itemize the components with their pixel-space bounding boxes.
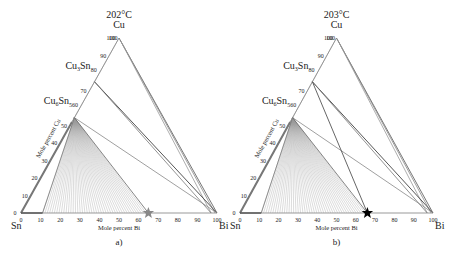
- phase-label-cu3sn: Cu3Sn80: [65, 60, 96, 73]
- left-tick: 40: [51, 140, 57, 146]
- left-tick: 30: [41, 158, 47, 164]
- vertex-label-cu: Cu: [331, 19, 343, 30]
- x-axis-label: Mole percent Bi: [98, 224, 140, 231]
- temperature-title: 202°C: [106, 9, 132, 20]
- left-tick: 90: [318, 53, 324, 59]
- left-tick: 10: [22, 193, 28, 199]
- temperature-title: 203°C: [324, 9, 350, 20]
- bottom-tick: 70: [372, 217, 378, 223]
- panel-label: a): [116, 237, 123, 247]
- left-tick: 90: [100, 53, 106, 59]
- bottom-tick: 80: [391, 217, 397, 223]
- left-tick: 70: [81, 88, 87, 94]
- y-axis-label: Mole percent Cu: [34, 117, 62, 159]
- vertex-label-sn: Sn: [11, 220, 22, 231]
- vertex-label-cu: Cu: [113, 19, 125, 30]
- vertex-label-sn: Sn: [230, 220, 241, 231]
- star-marker-icon: [143, 207, 154, 218]
- ternary-panel-a: 0102030405060708090100010203040507090100…: [11, 9, 229, 247]
- bottom-tick: 10: [38, 217, 44, 223]
- bottom-tick: 60: [353, 217, 359, 223]
- left-tick: 20: [250, 175, 256, 181]
- left-tick: 50: [279, 123, 285, 129]
- bottom-tick: 20: [57, 217, 63, 223]
- left-tick: 50: [61, 123, 67, 129]
- left-tick: 70: [299, 88, 305, 94]
- bottom-tick: 50: [334, 217, 340, 223]
- tick-100: 100: [324, 35, 333, 41]
- left-tick: 0: [14, 210, 17, 216]
- tick-100: 100: [107, 35, 116, 41]
- bottom-tick: 30: [77, 217, 83, 223]
- ternary-figure: 0102030405060708090100010203040507090100…: [0, 0, 455, 255]
- bottom-tick: 30: [295, 217, 301, 223]
- bottom-tick: 10: [256, 217, 262, 223]
- bottom-tick: 80: [175, 217, 181, 223]
- bottom-tick: 90: [411, 217, 417, 223]
- phase-label-cu6sn5: Cu6Sn560: [44, 95, 78, 108]
- panel-label: b): [333, 237, 341, 247]
- ternary-panel-b: 0102030405060708090100010203040507090100…: [230, 9, 445, 247]
- bottom-tick: 60: [136, 217, 142, 223]
- bottom-tick: 70: [155, 217, 161, 223]
- left-tick: 30: [260, 158, 266, 164]
- left-tick: 20: [32, 175, 38, 181]
- vertex-label-bi: Bi: [435, 220, 445, 231]
- x-axis-label: Mole percent Bi: [315, 224, 357, 231]
- y-axis-label: Mole percent Cu: [253, 117, 281, 159]
- phase-label-cu3sn: Cu3Sn80: [283, 60, 314, 73]
- left-tick: 10: [241, 193, 247, 199]
- bottom-tick: 50: [116, 217, 122, 223]
- vertex-label-bi: Bi: [219, 220, 229, 231]
- bottom-tick: 40: [96, 217, 102, 223]
- bottom-tick: 40: [314, 217, 320, 223]
- bottom-tick: 20: [276, 217, 282, 223]
- phase-label-cu6sn5: Cu6Sn560: [262, 95, 296, 108]
- bottom-tick: 90: [194, 217, 200, 223]
- left-tick: 40: [270, 140, 276, 146]
- left-tick: 0: [233, 210, 236, 216]
